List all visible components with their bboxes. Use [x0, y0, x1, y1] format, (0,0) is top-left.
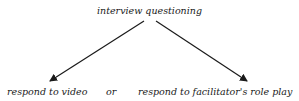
- left-arrow-icon: [50, 21, 144, 81]
- or-connector-label: or: [106, 87, 116, 97]
- right-arrow-icon: [156, 21, 247, 81]
- left-node-label: respond to video: [7, 87, 87, 97]
- right-node-label: respond to facilitator's role play: [138, 87, 292, 97]
